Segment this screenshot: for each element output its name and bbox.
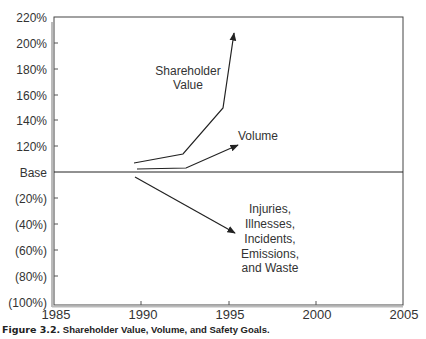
x-tick-labels: 1985 1990 1995 2000 2005 xyxy=(42,307,419,322)
svg-text:1995: 1995 xyxy=(216,307,245,322)
label-shareholder-line1: Shareholder xyxy=(155,64,220,78)
svg-text:(80%): (80%) xyxy=(15,270,47,284)
svg-text:120%: 120% xyxy=(16,140,47,154)
svg-text:160%: 160% xyxy=(16,89,47,103)
svg-text:Base: Base xyxy=(20,166,48,180)
label-injuries-line3: Incidents, xyxy=(244,232,295,246)
svg-text:180%: 180% xyxy=(16,63,47,77)
svg-text:220%: 220% xyxy=(16,11,47,25)
label-injuries-line2: Illnesses, xyxy=(245,217,295,231)
chart: 220% 200% 180% 160% 140% 120% Base (20%)… xyxy=(0,0,426,339)
svg-text:1985: 1985 xyxy=(42,307,71,322)
svg-text:2000: 2000 xyxy=(303,307,332,322)
figure-caption: Figure 3.2. Shareholder Value, Volume, a… xyxy=(2,324,270,335)
svg-text:(40%): (40%) xyxy=(15,218,47,232)
svg-text:1990: 1990 xyxy=(129,307,158,322)
svg-text:200%: 200% xyxy=(16,37,47,51)
label-injuries-line1: Injuries, xyxy=(249,202,291,216)
figure-title: Shareholder Value, Volume, and Safety Go… xyxy=(63,324,270,335)
label-volume: Volume xyxy=(238,129,278,143)
svg-text:(60%): (60%) xyxy=(15,244,47,258)
plot-frame xyxy=(54,17,403,305)
label-injuries-line5: and Waste xyxy=(242,261,299,275)
series-injuries xyxy=(135,177,235,233)
series-shareholder-value xyxy=(134,33,234,163)
label-shareholder-line2: Value xyxy=(173,78,203,92)
label-injuries-line4: Emissions, xyxy=(241,247,299,261)
svg-text:140%: 140% xyxy=(16,114,47,128)
x-ticks xyxy=(141,301,316,305)
y-tick-labels: 220% 200% 180% 160% 140% 120% Base (20%)… xyxy=(8,11,47,310)
figure-number: Figure 3.2. xyxy=(2,324,60,335)
y-ticks xyxy=(54,43,58,276)
svg-text:2005: 2005 xyxy=(390,307,419,322)
svg-text:(20%): (20%) xyxy=(15,192,47,206)
